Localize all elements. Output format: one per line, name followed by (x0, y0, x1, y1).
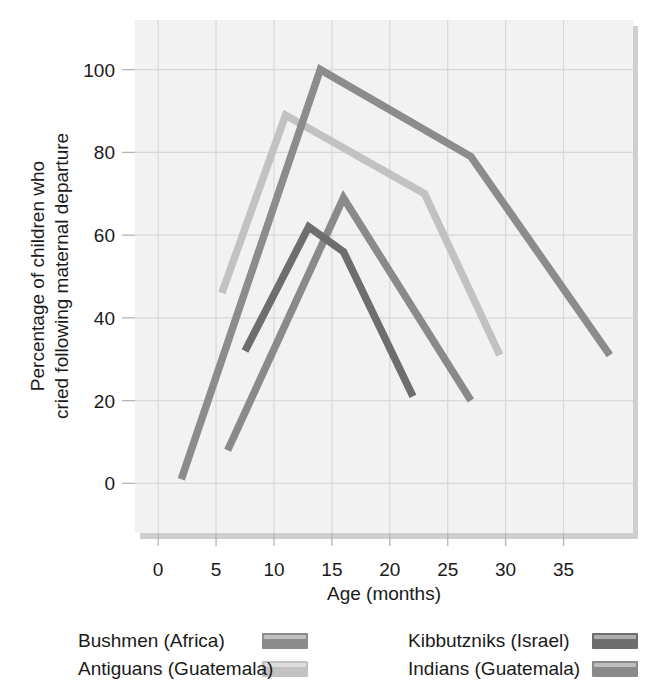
legend-label: Bushmen (Africa) (78, 630, 225, 651)
y-axis-tick-labels: 020406080100 (83, 60, 115, 495)
legend-item[interactable]: Kibbutzniks (Israel) (408, 630, 638, 651)
x-axis-tick-label: 30 (495, 559, 516, 580)
y-axis-tick-label: 20 (94, 391, 115, 412)
legend-item[interactable]: Indians (Guatemala) (408, 658, 638, 679)
legend-item[interactable]: Bushmen (Africa) (78, 630, 308, 651)
y-axis-tick-label: 0 (104, 473, 115, 494)
x-axis-tick-label: 25 (437, 559, 458, 580)
legend-label: Kibbutzniks (Israel) (408, 630, 570, 651)
legend-label: Indians (Guatemala) (408, 658, 580, 679)
y-axis-tick-label: 40 (94, 308, 115, 329)
y-axis-title-line2: cried following maternal departure (51, 133, 72, 419)
legend-swatch-highlight (594, 635, 636, 639)
x-axis-tick-label: 35 (553, 559, 574, 580)
legend-label: Antiguans (Guatemala) (78, 658, 273, 679)
x-axis-tick-label: 15 (321, 559, 342, 580)
legend-item[interactable]: Antiguans (Guatemala) (78, 658, 308, 679)
x-axis-tick-labels: 05101520253035 (153, 559, 574, 580)
chart-figure: 020406080100 05101520253035 Age (months)… (0, 0, 670, 688)
x-axis-tick-label: 10 (263, 559, 284, 580)
y-axis-tick-label: 100 (83, 60, 115, 81)
legend-swatch-highlight (594, 663, 636, 667)
x-axis-tick-label: 5 (211, 559, 222, 580)
y-axis-tick-label: 60 (94, 225, 115, 246)
legend-swatch-highlight (264, 635, 306, 639)
y-axis-title-line1: Percentage of children who (27, 161, 48, 391)
line-chart: 020406080100 05101520253035 Age (months)… (0, 0, 670, 688)
chart-legend: Bushmen (Africa)Antiguans (Guatemala)Kib… (78, 630, 638, 679)
x-axis-tick-label: 0 (153, 559, 164, 580)
y-axis-tick-label: 80 (94, 142, 115, 163)
x-axis-title: Age (months) (327, 583, 441, 604)
x-axis-tick-label: 20 (379, 559, 400, 580)
